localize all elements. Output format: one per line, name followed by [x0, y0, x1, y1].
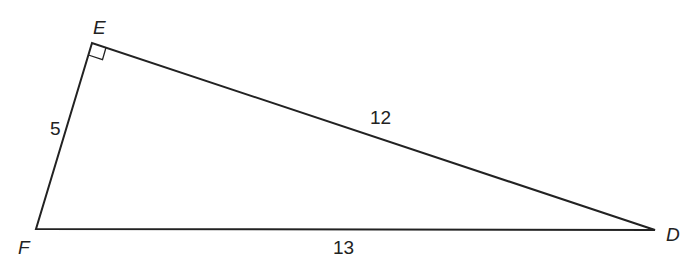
- vertex-label-e: E: [93, 17, 106, 38]
- vertex-label-d: D: [666, 224, 680, 245]
- side-length-fd: 13: [333, 237, 354, 258]
- side-length-ed: 12: [370, 107, 391, 128]
- vertex-label-f: F: [18, 237, 31, 258]
- triangle-def: [36, 43, 655, 230]
- triangle-svg: E F D 5 12 13: [0, 0, 696, 279]
- triangle-diagram: E F D 5 12 13: [0, 0, 696, 279]
- side-length-fe: 5: [50, 118, 61, 139]
